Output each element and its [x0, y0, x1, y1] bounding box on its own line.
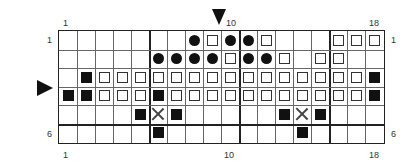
grid-cell: [149, 31, 167, 50]
grid-cell: [203, 124, 221, 143]
filled-circle-icon: [189, 53, 200, 64]
grid-cell: [365, 68, 383, 87]
grid-cell: [185, 124, 203, 143]
grid-cell: [347, 68, 365, 87]
grid-cell: [113, 87, 131, 106]
filled-square-icon: [153, 90, 164, 101]
cross-icon: [296, 108, 308, 120]
filled-square-icon: [135, 109, 146, 120]
grid-cell: [347, 87, 365, 106]
grid-cell: [77, 31, 95, 50]
filled-square-icon: [297, 127, 308, 138]
filled-circle-icon: [261, 53, 272, 64]
open-square-icon: [351, 35, 362, 46]
open-square-icon: [135, 72, 146, 83]
grid-cell: [329, 105, 347, 124]
top-col-label-18: 18: [369, 18, 379, 28]
grid-cell: [221, 50, 239, 69]
grid-cell: [185, 68, 203, 87]
open-square-icon: [135, 90, 146, 101]
grid-cell: [59, 124, 77, 143]
open-square-icon: [99, 90, 110, 101]
row-label-6-left: 6: [47, 129, 52, 139]
grid-cell: [365, 87, 383, 106]
open-square-icon: [171, 72, 182, 83]
grid-cell: [239, 124, 257, 143]
grid-cell: [275, 87, 293, 106]
grid-cell: [167, 105, 185, 124]
open-square-icon: [351, 72, 362, 83]
grid-cell: [185, 105, 203, 124]
grid-cell: [131, 87, 149, 106]
grid-cell: [293, 31, 311, 50]
grid-cell: [347, 124, 365, 143]
open-square-icon: [153, 72, 164, 83]
grid-cell: [311, 68, 329, 87]
grid-cell: [95, 50, 113, 69]
chart-grid: [58, 30, 385, 144]
grid-cell: [257, 31, 275, 50]
grid-cell: [203, 50, 221, 69]
grid-cell: [257, 105, 275, 124]
open-square-icon: [333, 72, 344, 83]
grid-cell: [329, 50, 347, 69]
cross-icon: [152, 108, 164, 120]
grid-cell: [203, 68, 221, 87]
filled-square-icon: [279, 109, 290, 120]
open-square-icon: [189, 90, 200, 101]
grid-cell: [77, 124, 95, 143]
grid-cell: [167, 87, 185, 106]
filled-circle-icon: [171, 53, 182, 64]
grid-cell: [77, 87, 95, 106]
grid-cell: [311, 31, 329, 50]
grid-cell: [239, 68, 257, 87]
filled-square-icon: [369, 72, 380, 83]
filled-circle-icon: [207, 53, 218, 64]
open-square-icon: [189, 72, 200, 83]
grid-cell: [329, 87, 347, 106]
grid-cell: [95, 68, 113, 87]
grid-cell: [257, 124, 275, 143]
grid-cell: [365, 50, 383, 69]
filled-square-icon: [369, 90, 380, 101]
grid-cell: [203, 31, 221, 50]
grid-cell: [257, 68, 275, 87]
grid-cell: [221, 105, 239, 124]
grid-cell: [167, 31, 185, 50]
open-square-icon: [99, 72, 110, 83]
grid-cell: [95, 105, 113, 124]
grid-cell: [95, 31, 113, 50]
filled-circle-icon: [225, 35, 236, 46]
open-square-icon: [117, 90, 128, 101]
grid-cell: [77, 50, 95, 69]
grid-cell: [275, 31, 293, 50]
bottom-col-label-1: 1: [63, 150, 68, 160]
grid-cell: [167, 50, 185, 69]
grid-cell: [113, 50, 131, 69]
grid-cell: [113, 31, 131, 50]
grid-cell: [149, 105, 167, 124]
grid-cell: [293, 68, 311, 87]
grid-cell: [185, 31, 203, 50]
grid-cell: [203, 87, 221, 106]
row-label-6-right: 6: [391, 129, 396, 139]
filled-square-icon: [81, 90, 92, 101]
grid-cell: [347, 105, 365, 124]
grid-cell: [293, 105, 311, 124]
top-col-label-1: 1: [63, 18, 68, 28]
grid-cell: [347, 50, 365, 69]
open-square-icon: [279, 53, 290, 64]
bottom-col-label-10: 10: [224, 150, 234, 160]
grid-cell: [257, 50, 275, 69]
grid-cell: [275, 105, 293, 124]
grid-cell: [275, 68, 293, 87]
grid-cell: [149, 87, 167, 106]
filled-circle-icon: [243, 35, 254, 46]
grid-cell: [365, 105, 383, 124]
grid-cell: [293, 50, 311, 69]
open-square-icon: [207, 90, 218, 101]
grid-cell: [149, 50, 167, 69]
grid-cell: [113, 68, 131, 87]
row-label-1-left: 1: [47, 35, 52, 45]
grid-cell: [365, 31, 383, 50]
